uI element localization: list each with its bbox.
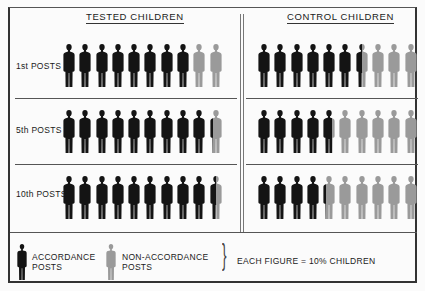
control-5th-posts-figures [258, 110, 417, 153]
person-figure-icon [17, 244, 27, 280]
person-figure-icon [372, 44, 384, 87]
scale-note: EACH FIGURE = 10% CHILDREN [237, 256, 375, 266]
person-figure-icon [177, 110, 189, 153]
person-figure-icon [128, 176, 140, 219]
person-figure-icon [128, 44, 140, 87]
person-figure-icon [307, 44, 319, 87]
row-divider-control-2 [246, 164, 418, 165]
person-figure-icon [291, 44, 303, 87]
person-figure-icon [339, 44, 351, 87]
person-figure-icon [210, 176, 222, 219]
person-figure-icon [323, 110, 335, 153]
legend-divider [10, 232, 417, 233]
person-figure-icon [112, 176, 124, 219]
person-figure-icon [79, 176, 91, 219]
person-figure-icon [323, 176, 335, 219]
tested-1st-posts-figures [63, 44, 222, 87]
person-figure-icon [112, 110, 124, 153]
brace-icon: } [222, 238, 227, 272]
accordance-label-line2: POSTS [32, 262, 95, 272]
person-figure-icon [405, 176, 417, 219]
person-figure-icon [323, 44, 335, 87]
control-children-title: CONTROL CHILDREN [287, 11, 394, 24]
person-figure-icon [339, 176, 351, 219]
person-figure-icon [258, 110, 270, 153]
person-figure-icon [96, 44, 108, 87]
person-figure-icon [274, 44, 286, 87]
person-figure-icon [79, 44, 91, 87]
non-accordance-label-line2: POSTS [122, 262, 208, 272]
person-figure-icon [307, 110, 319, 153]
person-figure-icon [177, 176, 189, 219]
person-figure-icon [63, 176, 75, 219]
person-figure-icon [405, 110, 417, 153]
person-figure-icon [356, 176, 368, 219]
person-figure-icon [356, 110, 368, 153]
tested-5th-posts-figures [63, 110, 222, 153]
person-figure-icon [144, 110, 156, 153]
panel-divider-left-line [240, 14, 241, 233]
control-1st-posts-figures [258, 44, 417, 87]
person-figure-icon [307, 176, 319, 219]
person-figure-icon [112, 44, 124, 87]
person-figure-icon [128, 110, 140, 153]
person-figure-icon [291, 110, 303, 153]
person-figure-icon [193, 110, 205, 153]
person-figure-icon [210, 44, 222, 87]
person-figure-icon [372, 176, 384, 219]
person-figure-icon [356, 44, 368, 87]
tested-children-title: TESTED CHILDREN [86, 11, 184, 24]
row-divider-control-1 [246, 98, 418, 99]
person-figure-icon [177, 44, 189, 87]
row-divider-tested-2 [15, 164, 237, 165]
accordance-legend-label: ACCORDANCE POSTS [32, 252, 95, 272]
person-figure-icon [274, 176, 286, 219]
person-figure-icon [339, 110, 351, 153]
non-accordance-legend-label: NON-ACCORDANCE POSTS [122, 252, 208, 272]
person-figure-icon [161, 176, 173, 219]
person-figure-icon [405, 44, 417, 87]
control-10th-posts-figures [258, 176, 417, 219]
row-label-5th-posts: 5th POSTS [16, 125, 62, 135]
person-figure-icon [144, 44, 156, 87]
row-label-1st-posts: 1st POSTS [16, 61, 61, 71]
person-figure-icon [372, 110, 384, 153]
accordance-label-line1: ACCORDANCE [32, 252, 95, 262]
person-figure-icon [258, 44, 270, 87]
person-figure-icon [388, 44, 400, 87]
row-divider-tested-1 [15, 98, 237, 99]
person-figure-icon [63, 110, 75, 153]
person-figure-icon [210, 110, 222, 153]
person-figure-icon [193, 44, 205, 87]
person-figure-icon [79, 110, 91, 153]
non-accordance-label-line1: NON-ACCORDANCE [122, 252, 208, 262]
non-accordance-figure-icon [106, 244, 116, 280]
person-figure-icon [161, 44, 173, 87]
accordance-figure-icon [17, 244, 27, 280]
row-label-10th-posts: 10th POSTS [16, 189, 67, 199]
person-figure-icon [63, 44, 75, 87]
person-figure-icon [193, 176, 205, 219]
person-figure-icon [161, 110, 173, 153]
person-figure-icon [106, 244, 116, 280]
tested-10th-posts-figures [63, 176, 222, 219]
person-figure-icon [144, 176, 156, 219]
person-figure-icon [388, 176, 400, 219]
person-figure-icon [291, 176, 303, 219]
person-figure-icon [388, 110, 400, 153]
panel-divider-right-line [243, 14, 244, 233]
person-figure-icon [258, 176, 270, 219]
person-figure-icon [274, 110, 286, 153]
person-figure-icon [96, 110, 108, 153]
person-figure-icon [96, 176, 108, 219]
